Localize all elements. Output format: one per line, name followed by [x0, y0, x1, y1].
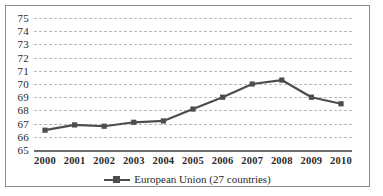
y-axis-tick-label: 66	[18, 131, 29, 142]
data-point-marker	[250, 81, 255, 86]
data-point-marker	[102, 124, 107, 129]
x-axis-tick-label: 2005	[182, 156, 204, 167]
line-square-marker-icon	[104, 175, 130, 185]
y-axis-tick-label: 68	[18, 105, 29, 116]
y-axis-tick-label: 72	[18, 52, 29, 63]
legend-item-label: European Union (27 countries)	[134, 174, 271, 185]
y-axis-tick-label: 69	[18, 92, 29, 103]
x-axis-tick-label: 2001	[64, 156, 86, 167]
data-point-marker	[42, 128, 47, 133]
data-point-marker	[220, 95, 225, 100]
y-axis-tick-label: 73	[18, 39, 29, 50]
data-point-marker	[161, 118, 166, 123]
y-axis-tick-label: 71	[18, 65, 29, 76]
series-line-european-union	[45, 80, 341, 130]
x-axis-tick-label: 2010	[330, 156, 352, 167]
chart-frame: 6566676869707172737475 20002001200220032…	[5, 5, 370, 187]
data-point-marker	[190, 106, 195, 111]
x-axis-tick-label: 2002	[93, 156, 115, 167]
x-axis-tick-label: 2008	[271, 156, 293, 167]
y-axis-tick-label: 74	[18, 26, 29, 37]
data-point-marker	[131, 120, 136, 125]
x-axis-tick-label: 2000	[34, 156, 56, 167]
data-point-marker	[72, 122, 77, 127]
y-axis-tick-label: 75	[18, 13, 29, 24]
y-axis-tick-label: 67	[18, 118, 29, 129]
plot-area: 6566676869707172737475 20002001200220032…	[34, 18, 352, 150]
y-axis-tick-label: 65	[18, 145, 29, 156]
x-axis-tick-label: 2009	[300, 156, 322, 167]
x-axis-tick-label: 2004	[152, 156, 174, 167]
series-line-chart	[34, 18, 352, 150]
x-axis-tick-label: 2006	[212, 156, 234, 167]
data-point-marker	[338, 101, 343, 106]
y-axis-tick-label: 70	[18, 79, 29, 90]
data-point-marker	[279, 77, 284, 82]
x-axis-tick-label: 2007	[241, 156, 263, 167]
x-axis-tick-label: 2003	[123, 156, 145, 167]
data-point-marker	[309, 95, 314, 100]
chart-legend: European Union (27 countries)	[6, 174, 369, 185]
x-axis-line	[34, 150, 352, 152]
